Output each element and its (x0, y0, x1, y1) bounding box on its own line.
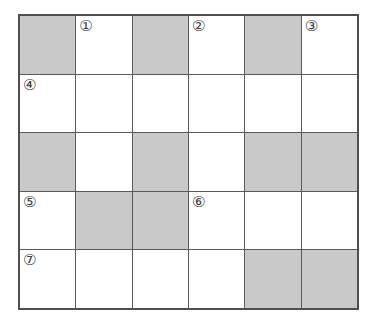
puzzle-grid-row: ⑤⑥ (19, 191, 358, 250)
grid-cell-white[interactable]: ④ (19, 74, 76, 133)
grid-cell-shaded[interactable] (132, 15, 188, 74)
clue-number: ① (79, 18, 92, 35)
grid-cell-white[interactable] (76, 250, 132, 309)
grid-cell-shaded[interactable] (19, 15, 76, 74)
grid-cell-white[interactable] (245, 74, 301, 133)
grid-cell-white[interactable] (76, 74, 132, 133)
grid-cell-white[interactable] (132, 74, 188, 133)
puzzle-grid-row: ④ (19, 74, 358, 133)
grid-cell-shaded[interactable] (245, 15, 301, 74)
clue-number: ⑤ (23, 194, 36, 211)
grid-cell-white[interactable]: ⑥ (188, 191, 244, 250)
puzzle-grid-row: ⑦ (19, 250, 358, 309)
grid-cell-shaded[interactable] (132, 133, 188, 192)
grid-cell-white[interactable] (301, 191, 358, 250)
puzzle-grid-body: ①②③④⑤⑥⑦ (19, 15, 358, 309)
grid-cell-shaded[interactable] (301, 250, 358, 309)
clue-number: ② (192, 18, 205, 35)
clue-number: ⑦ (23, 252, 36, 269)
grid-cell-shaded[interactable] (19, 133, 76, 192)
grid-cell-white[interactable] (132, 250, 188, 309)
clue-number: ⑥ (192, 194, 205, 211)
grid-cell-shaded[interactable] (245, 250, 301, 309)
grid-cell-white[interactable] (188, 133, 244, 192)
grid-cell-white[interactable]: ⑤ (19, 191, 76, 250)
grid-cell-white[interactable] (301, 74, 358, 133)
grid-cell-shaded[interactable] (245, 133, 301, 192)
grid-cell-shaded[interactable] (76, 191, 132, 250)
puzzle-grid-container: ①②③④⑤⑥⑦ (18, 14, 350, 302)
grid-cell-white[interactable] (76, 133, 132, 192)
grid-cell-white[interactable]: ③ (301, 15, 358, 74)
grid-cell-white[interactable]: ① (76, 15, 132, 74)
grid-cell-white[interactable] (188, 74, 244, 133)
grid-cell-white[interactable]: ⑦ (19, 250, 76, 309)
puzzle-grid-row: ①②③ (19, 15, 358, 74)
grid-cell-white[interactable]: ② (188, 15, 244, 74)
grid-cell-shaded[interactable] (132, 191, 188, 250)
grid-cell-white[interactable] (245, 191, 301, 250)
grid-cell-shaded[interactable] (301, 133, 358, 192)
clue-number: ③ (305, 18, 318, 35)
puzzle-grid: ①②③④⑤⑥⑦ (18, 14, 359, 310)
clue-number: ④ (23, 77, 36, 94)
grid-cell-white[interactable] (188, 250, 244, 309)
puzzle-grid-row (19, 133, 358, 192)
